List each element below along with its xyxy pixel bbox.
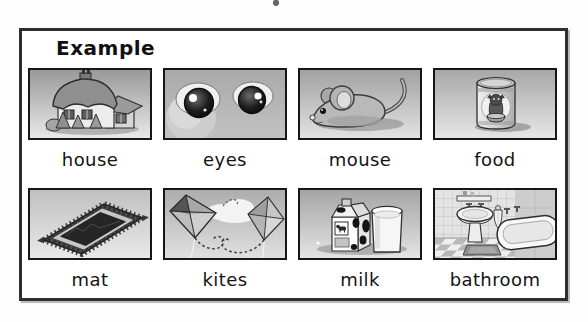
tile-eyes: eyes <box>163 68 287 188</box>
tile-label: mouse <box>298 149 422 171</box>
tile-label: food <box>433 149 557 171</box>
tile-food: food <box>433 68 557 188</box>
tile-mat: mat <box>28 188 152 308</box>
eyes-illustration <box>163 68 287 140</box>
tile-label: bathroom <box>433 269 557 291</box>
house-illustration <box>28 68 152 140</box>
tile-house: house <box>28 68 152 188</box>
cat-food-can-illustration <box>433 68 557 140</box>
mouse-image <box>300 70 420 138</box>
mouse-illustration <box>298 68 422 140</box>
tile-label: milk <box>298 269 422 291</box>
tile-bathroom: bathroom <box>433 188 557 308</box>
kites-image <box>165 190 285 258</box>
milk-carton-glass-illustration <box>298 188 422 260</box>
house-image <box>30 70 150 138</box>
rug-illustration <box>28 188 152 260</box>
bathroom-illustration <box>433 188 557 260</box>
cropped-text-artifact <box>273 0 279 6</box>
tile-mouse: mouse <box>298 68 422 188</box>
tile-label: mat <box>28 269 152 291</box>
picture-grid: house <box>28 68 557 308</box>
example-title: Example <box>56 36 155 60</box>
bathroom-image <box>435 190 555 258</box>
tile-label: house <box>28 149 152 171</box>
tile-kites: kites <box>163 188 287 308</box>
tile-label: kites <box>163 269 287 291</box>
eyes-image <box>165 70 285 138</box>
tile-label: eyes <box>163 149 287 171</box>
kites-illustration <box>163 188 287 260</box>
mat-image <box>30 190 150 258</box>
example-box: Example <box>19 28 568 301</box>
tile-milk: milk <box>298 188 422 308</box>
food-image <box>435 70 555 138</box>
milk-image <box>300 190 420 258</box>
